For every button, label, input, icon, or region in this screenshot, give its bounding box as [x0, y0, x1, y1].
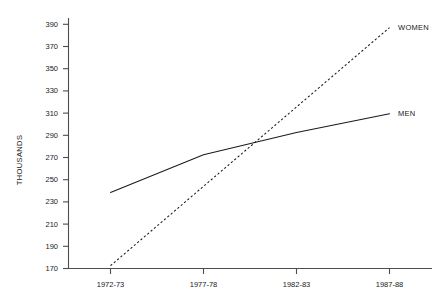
y-tick-label: 270 [45, 153, 58, 162]
y-tick-label: 350 [45, 64, 58, 73]
y-axis-title: THOUSANDS [15, 135, 24, 186]
x-tick-label: 1982-83 [283, 280, 311, 289]
y-tick-label: 250 [45, 175, 58, 184]
y-tick-label: 170 [45, 264, 58, 273]
line-chart: 170 190 210 230 250 270 290 310 330 350 … [0, 0, 447, 307]
y-tick-label: 210 [45, 220, 58, 229]
y-tick-label: 190 [45, 242, 58, 251]
x-tick-label: 1972-73 [97, 280, 125, 289]
y-tick-label: 330 [45, 86, 58, 95]
y-tick-label: 230 [45, 197, 58, 206]
y-tick-label: 390 [45, 20, 58, 29]
series-label-women: WOMEN [398, 23, 429, 32]
x-tick-label: 1987-88 [376, 280, 404, 289]
chart-canvas: 170 190 210 230 250 270 290 310 330 350 … [0, 0, 447, 307]
y-tick-label: 310 [45, 109, 58, 118]
series-label-men: MEN [398, 109, 416, 118]
y-tick-label: 370 [45, 42, 58, 51]
y-tick-label: 290 [45, 131, 58, 140]
x-tick-label: 1977-78 [190, 280, 218, 289]
